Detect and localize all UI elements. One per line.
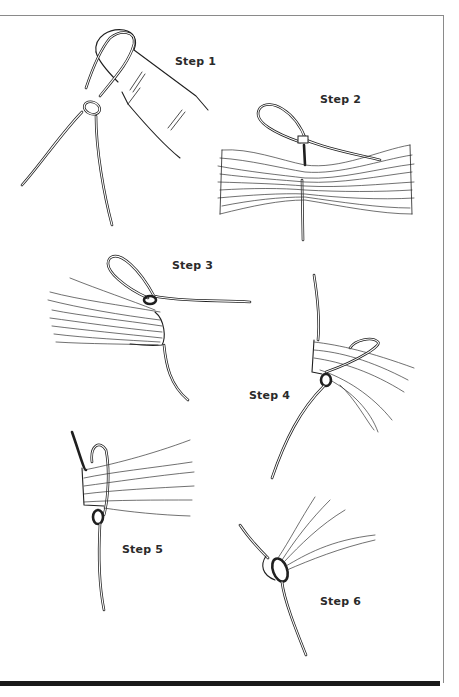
step6-tassel-illustration xyxy=(240,497,375,655)
step-2-label: Step 2 xyxy=(320,93,361,106)
step-4-label: Step 4 xyxy=(249,389,290,402)
step2-bundle-illustration xyxy=(218,105,414,240)
step-6-label: Step 6 xyxy=(320,595,361,608)
step5-bundle-illustration xyxy=(72,432,194,610)
tassel-illustration xyxy=(0,0,459,697)
step-1-label: Step 1 xyxy=(175,55,216,68)
step3-folded-bundle-illustration xyxy=(48,256,250,400)
step-3-label: Step 3 xyxy=(172,259,213,272)
step4-wrapped-bundle-illustration xyxy=(272,275,414,478)
step-5-label: Step 5 xyxy=(122,543,163,556)
